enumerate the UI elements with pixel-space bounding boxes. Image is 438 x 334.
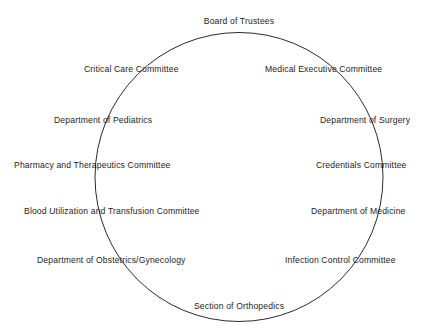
- node-label-section-of-orthopedics: Section of Orthopedics: [194, 301, 284, 312]
- node-label-department-of-obstetrics-gynecology: Department of Obstetrics/Gynecology: [37, 255, 186, 266]
- node-label-blood-utilization-and-transfusion-committee: Blood Utilization and Transfusion Commit…: [24, 206, 200, 217]
- node-label-department-of-surgery: Department of Surgery: [320, 115, 410, 126]
- circle-outline: [95, 33, 383, 322]
- node-label-department-of-medicine: Department of Medicine: [311, 206, 406, 217]
- node-label-department-of-pediatrics: Department of Pediatrics: [54, 115, 152, 126]
- node-label-infection-control-committee: Infection Control Committee: [285, 255, 396, 266]
- diagram-canvas: Board of TrusteesCritical Care Committee…: [0, 0, 438, 334]
- node-label-board-of-trustees: Board of Trustees: [204, 16, 274, 27]
- node-label-credentials-committee: Credentials Committee: [316, 160, 407, 171]
- node-label-critical-care-committee: Critical Care Committee: [84, 64, 179, 75]
- node-label-pharmacy-and-therapeutics-committee: Pharmacy and Therapeutics Committee: [14, 160, 171, 171]
- node-label-medical-executive-committee: Medical Executive Committee: [265, 64, 382, 75]
